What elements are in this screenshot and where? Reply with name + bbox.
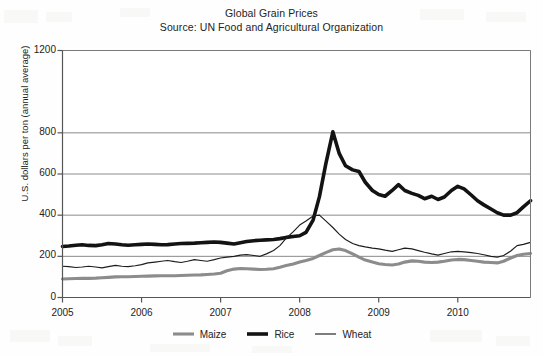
- legend-label: Rice: [274, 329, 294, 340]
- legend-entry-maize[interactable]: Maize: [172, 328, 227, 340]
- legend-entry-rice[interactable]: Rice: [246, 328, 294, 340]
- legend-swatch-wheat: [314, 328, 337, 340]
- chart-figure: Global Grain Prices Source: UN Food and …: [0, 0, 543, 356]
- chart-legend: MaizeRiceWheat: [0, 328, 543, 340]
- plot-area: [0, 0, 543, 356]
- legend-label: Wheat: [342, 329, 371, 340]
- legend-swatch-maize: [172, 328, 195, 340]
- legend-swatch-rice: [246, 328, 269, 340]
- legend-label: Maize: [200, 329, 227, 340]
- legend-entry-wheat[interactable]: Wheat: [314, 328, 371, 340]
